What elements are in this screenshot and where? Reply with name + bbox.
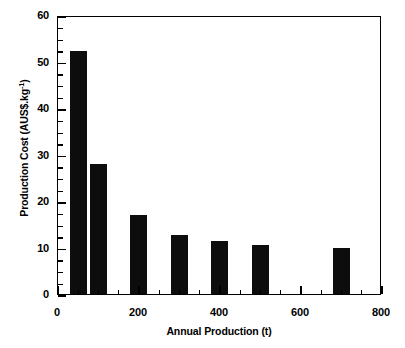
y-tick-minor: [58, 40, 63, 41]
y-tick-label-20: 20: [5, 195, 49, 207]
x-tick-minor: [260, 290, 261, 295]
x-tick-minor: [240, 290, 241, 295]
y-tick-minor: [58, 237, 63, 238]
y-axis-title-superscript: -1: [17, 83, 26, 89]
figure-canvas: Production Cost (AUS$.kg-1) Annual Produ…: [0, 0, 405, 348]
x-tick-major: [381, 286, 383, 294]
x-tick-minor: [159, 290, 160, 295]
y-tick-minor: [58, 260, 63, 261]
y-tick-minor: [58, 226, 63, 227]
y-tick-label-10: 10: [5, 242, 49, 254]
x-tick-major: [219, 286, 221, 294]
y-tick-minor: [58, 86, 63, 87]
y-tick-minor: [58, 272, 63, 273]
x-tick-label-400: 400: [194, 306, 244, 318]
y-tick-minor: [58, 179, 63, 180]
x-tick-major: [138, 286, 140, 294]
x-tick-label-600: 600: [275, 306, 325, 318]
y-axis-title-close: ): [18, 79, 30, 82]
x-tick-minor: [280, 290, 281, 295]
y-tick-minor: [58, 144, 63, 145]
bar-200: [130, 215, 147, 294]
y-tick-minor: [58, 98, 63, 99]
x-tick-minor: [179, 290, 180, 295]
y-tick-label-0: 0: [5, 288, 49, 300]
y-tick-minor: [58, 121, 63, 122]
x-tick-minor: [78, 290, 79, 295]
y-tick-major: [58, 109, 66, 111]
y-tick-major: [58, 202, 66, 204]
bar-700: [333, 248, 350, 294]
y-tick-label-50: 50: [5, 56, 49, 68]
x-tick-minor: [98, 290, 99, 295]
x-tick-major: [57, 286, 59, 294]
bar-100: [90, 164, 107, 294]
x-tick-minor: [361, 290, 362, 295]
bar-50: [70, 51, 87, 294]
y-tick-major: [58, 249, 66, 251]
y-tick-major: [58, 63, 66, 65]
x-tick-minor: [199, 290, 200, 295]
y-tick-minor: [58, 28, 63, 29]
y-tick-major: [58, 16, 66, 18]
x-tick-minor: [118, 290, 119, 295]
x-tick-label-0: 0: [32, 306, 82, 318]
x-tick-label-200: 200: [113, 306, 163, 318]
y-tick-minor: [58, 214, 63, 215]
y-tick-label-60: 60: [5, 9, 49, 21]
y-tick-label-30: 30: [5, 149, 49, 161]
y-tick-minor: [58, 191, 63, 192]
y-tick-major: [58, 295, 66, 297]
plot-area: [57, 16, 381, 295]
x-tick-major: [300, 286, 302, 294]
y-tick-major: [58, 156, 66, 158]
y-tick-minor: [58, 51, 63, 52]
bar-500: [252, 245, 269, 294]
y-tick-minor: [58, 167, 63, 168]
x-tick-minor: [321, 290, 322, 295]
y-tick-minor: [58, 284, 63, 285]
scan-edge: [0, 341, 405, 348]
y-tick-minor: [58, 133, 63, 134]
x-tick-minor: [341, 290, 342, 295]
x-tick-label-800: 800: [356, 306, 405, 318]
y-tick-minor: [58, 74, 63, 75]
bar-300: [171, 235, 188, 294]
x-axis-title: Annual Production (t): [57, 325, 381, 337]
y-tick-label-40: 40: [5, 102, 49, 114]
